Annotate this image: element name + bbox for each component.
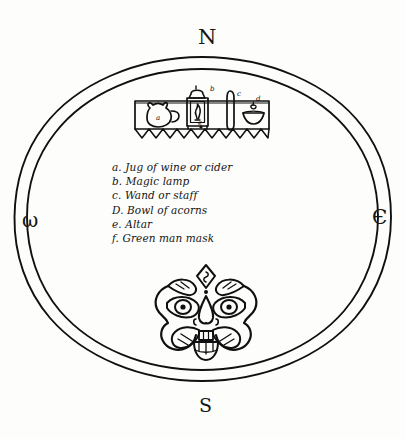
legend-item: c. Wand or staff — [112, 188, 302, 202]
legend-text: Magic lamp — [126, 175, 190, 187]
mask-mouth — [199, 331, 213, 340]
compass-east: Є — [372, 207, 387, 227]
altar-item-lamp-label: b — [210, 85, 215, 93]
legend-key: e. — [112, 218, 122, 230]
legend-key: b. — [112, 175, 122, 187]
legend-text: Jug of wine or cider — [125, 161, 232, 173]
legend-text: Bowl of acorns — [127, 204, 207, 216]
legend-key: c. — [112, 189, 121, 201]
legend-key: f. — [112, 232, 119, 244]
altar-item-jug-label: a — [156, 114, 160, 122]
altar-item-jug: a — [147, 103, 179, 127]
altar-drawing: a b c — [131, 84, 273, 158]
legend-item: e. Altar — [112, 217, 302, 231]
altar-valance — [135, 129, 269, 138]
compass-west: ω — [22, 210, 38, 230]
green-man-mask — [148, 262, 264, 366]
altar-item-bowl-label: d — [256, 95, 261, 103]
legend-item: D. Bowl of acorns — [112, 203, 302, 217]
compass-south: S — [199, 396, 212, 415]
altar-item-bowl: d — [243, 95, 264, 124]
legend-item: b. Magic lamp — [112, 174, 302, 188]
legend-key: D. — [112, 204, 124, 216]
legend-text: Altar — [125, 218, 152, 230]
compass-north: N — [198, 27, 216, 48]
legend: a. Jug of wine or cider b. Magic lamp c.… — [112, 160, 302, 245]
legend-item: a. Jug of wine or cider — [112, 160, 302, 174]
legend-key: a. — [112, 161, 122, 173]
diagram-canvas: N Є S ω a — [0, 0, 405, 439]
altar-marker: e — [198, 119, 203, 129]
mask-nose — [199, 296, 213, 323]
altar-marker-label: e — [198, 119, 202, 127]
legend-item: f. Green man mask — [112, 231, 302, 245]
legend-text: Wand or staff — [125, 189, 198, 201]
legend-text: Green man mask — [123, 232, 215, 244]
altar-item-wand-label: c — [237, 90, 241, 98]
altar-item-wand: c — [227, 90, 241, 130]
